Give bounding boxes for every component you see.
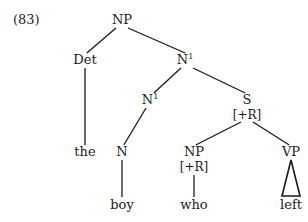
node-n1-lower: N1 [142, 92, 158, 107]
syntax-tree: (83) NP Det N1 N1 S [+R] the N NP [+R] V… [0, 0, 308, 222]
node-s-feature: [+R] [233, 108, 261, 122]
node-np-rel-feature: [+R] [180, 160, 208, 174]
edge-s-np_rel [196, 122, 241, 145]
node-s: S [243, 92, 252, 107]
example-number: (83) [13, 12, 40, 27]
edge-np_root-n1_upper [128, 28, 185, 53]
edge-n1_lower-n [124, 108, 146, 145]
edge-s-vp [253, 122, 289, 145]
edge-np_root-det [87, 28, 116, 53]
node-left: left [280, 197, 303, 212]
node-the: the [74, 144, 96, 159]
node-det: Det [73, 52, 97, 67]
edge-n1_upper-n1_lower [154, 68, 181, 93]
node-n: N [116, 144, 127, 159]
node-np-root: NP [112, 12, 132, 27]
edge-n1_upper-s [193, 68, 245, 93]
node-n1-upper: N1 [177, 52, 193, 67]
node-boy: boy [110, 197, 134, 212]
node-who: who [180, 197, 208, 212]
node-vp: VP [281, 144, 300, 159]
triangle-vp-left [282, 160, 300, 196]
node-np-rel: NP [184, 144, 204, 159]
